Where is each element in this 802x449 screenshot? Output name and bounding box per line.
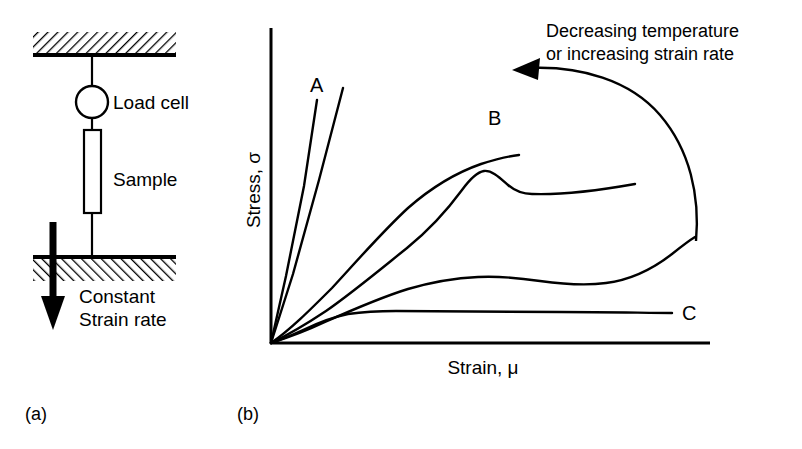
load-cell-label: Load cell [113, 92, 189, 113]
trend-arrowhead-icon [512, 58, 540, 80]
curve-label-c: C [682, 302, 696, 324]
strain-rate-label: Strain rate [79, 309, 167, 330]
trend-annotation: Decreasing temperature or increasing str… [512, 21, 739, 241]
curve-5 [271, 237, 695, 343]
sample-specimen [84, 130, 101, 213]
curve-2 [271, 88, 343, 343]
curve-b [271, 155, 519, 343]
curve-series-group [271, 88, 695, 343]
top-support [33, 32, 176, 55]
load-cell-icon [76, 86, 108, 118]
curve-label-a: A [310, 74, 324, 96]
figure-container: Load cell Sample Constant Strain rate A … [0, 0, 802, 449]
trend-annotation-line-1: Decreasing temperature [546, 21, 739, 41]
subfigure-caption-a: (a) [25, 404, 47, 424]
subfigure-caption-b: (b) [237, 404, 259, 424]
figure-svg: Load cell Sample Constant Strain rate A … [0, 0, 802, 449]
apparatus-diagram: Load cell Sample Constant Strain rate [33, 32, 189, 330]
sample-label: Sample [113, 169, 177, 190]
x-axis-label: Strain, μ [447, 357, 518, 378]
curve-c [271, 311, 672, 343]
curve-a [271, 100, 317, 343]
trend-annotation-line-2: or increasing strain rate [546, 44, 734, 64]
constant-label: Constant [79, 286, 156, 307]
curve-4 [271, 171, 635, 343]
y-axis-label: Stress, σ [243, 152, 264, 228]
curve-label-b: B [488, 107, 501, 129]
trend-arrow-curve [530, 68, 697, 241]
top-support-hatching [33, 32, 176, 54]
stress-strain-chart: A B C Stress, σ Strain, μ Decreasing tem… [243, 21, 739, 378]
